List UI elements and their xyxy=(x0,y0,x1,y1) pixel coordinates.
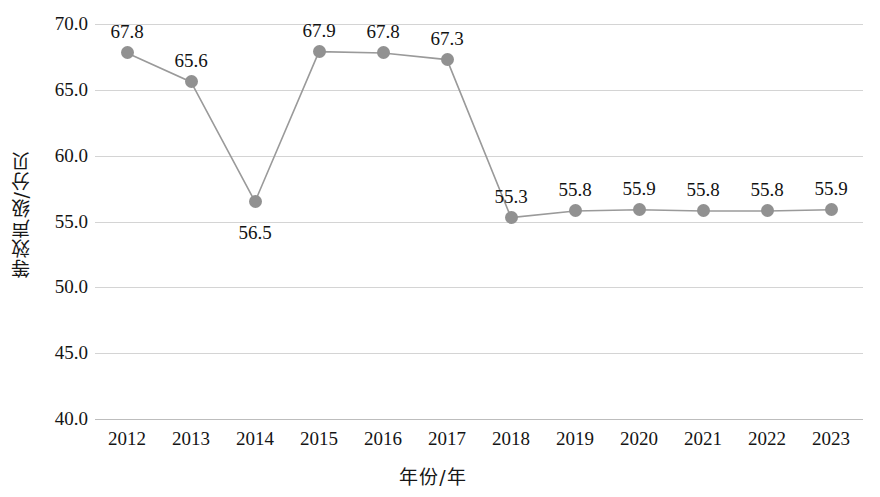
data-point-label: 67.3 xyxy=(430,28,463,50)
data-point-marker[interactable] xyxy=(441,53,454,66)
y-axis-tick-label: 45.0 xyxy=(55,342,88,364)
data-point-label: 55.8 xyxy=(686,179,719,201)
data-point-label: 55.8 xyxy=(558,179,591,201)
y-axis-tick-label: 55.0 xyxy=(55,211,88,233)
y-axis-tick-label: 60.0 xyxy=(55,145,88,167)
x-axis-tick-label: 2015 xyxy=(300,428,338,450)
data-point-marker[interactable] xyxy=(825,203,838,216)
y-axis-tick-labels: 70.065.060.055.050.045.040.0 xyxy=(30,0,88,497)
data-point-marker[interactable] xyxy=(249,195,262,208)
y-axis-tick-label: 40.0 xyxy=(55,408,88,430)
y-axis-tick-label: 50.0 xyxy=(55,276,88,298)
x-axis-tick-label: 2022 xyxy=(748,428,786,450)
data-point-label: 65.6 xyxy=(174,50,207,72)
data-point-label: 55.9 xyxy=(814,178,847,200)
x-axis-tick-label: 2020 xyxy=(620,428,658,450)
series-line-layer xyxy=(0,0,880,497)
data-point-label: 67.8 xyxy=(110,21,143,43)
y-axis-tick-label: 70.0 xyxy=(55,13,88,35)
x-axis-tick-label: 2013 xyxy=(172,428,210,450)
data-point-marker[interactable] xyxy=(121,46,134,59)
x-axis-tick-label: 2021 xyxy=(684,428,722,450)
data-point-marker[interactable] xyxy=(697,204,710,217)
series-polyline xyxy=(127,52,831,218)
data-point-label: 56.5 xyxy=(238,222,271,244)
gridline xyxy=(95,287,863,288)
chart-canvas: 等效声级/分贝 70.065.060.055.050.045.040.0 67.… xyxy=(0,0,880,497)
gridline xyxy=(95,419,863,420)
data-point-marker[interactable] xyxy=(569,204,582,217)
x-axis-tick-label: 2023 xyxy=(812,428,850,450)
x-axis-title: 年份/年 xyxy=(0,462,880,489)
x-axis-tick-label: 2019 xyxy=(556,428,594,450)
data-point-marker[interactable] xyxy=(633,203,646,216)
data-point-label: 67.8 xyxy=(366,21,399,43)
data-point-label: 55.9 xyxy=(622,178,655,200)
data-point-marker[interactable] xyxy=(313,45,326,58)
x-axis-tick-label: 2018 xyxy=(492,428,530,450)
gridline xyxy=(95,156,863,157)
data-point-label: 55.3 xyxy=(494,186,527,208)
y-axis-tick-label: 65.0 xyxy=(55,79,88,101)
data-point-marker[interactable] xyxy=(377,46,390,59)
x-axis-tick-label: 2016 xyxy=(364,428,402,450)
data-point-label: 55.8 xyxy=(750,179,783,201)
x-axis-title-text: 年份/年 xyxy=(399,462,466,489)
x-axis-tick-label: 2012 xyxy=(108,428,146,450)
data-point-marker[interactable] xyxy=(761,204,774,217)
gridline xyxy=(95,353,863,354)
gridline xyxy=(95,222,863,223)
x-axis-tick-label: 2017 xyxy=(428,428,466,450)
data-point-marker[interactable] xyxy=(185,75,198,88)
gridline xyxy=(95,90,863,91)
x-axis-tick-label: 2014 xyxy=(236,428,274,450)
gridline xyxy=(95,24,863,25)
data-point-label: 67.9 xyxy=(302,20,335,42)
data-point-marker[interactable] xyxy=(505,211,518,224)
